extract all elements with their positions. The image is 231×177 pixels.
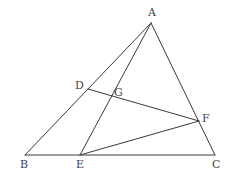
point-label-b: B [20, 158, 28, 171]
point-label-e: E [76, 158, 84, 171]
point-label-c: C [212, 158, 220, 171]
point-labels: ABCDEFG [20, 6, 220, 171]
segment-ca [151, 23, 215, 155]
point-label-f: F [202, 112, 210, 125]
segment-ef [80, 121, 199, 155]
point-label-g: G [114, 86, 123, 99]
segment-df [88, 89, 199, 121]
point-label-d: D [75, 79, 84, 92]
geometry-diagram: ABCDEFG [0, 0, 231, 177]
point-label-a: A [147, 6, 157, 19]
